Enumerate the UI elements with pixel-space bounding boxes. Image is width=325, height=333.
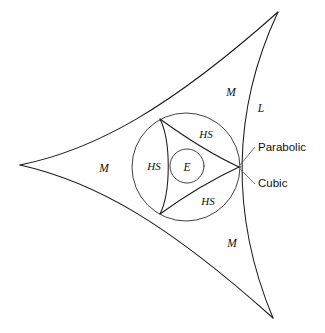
region-label-hs-left: HS (146, 160, 161, 172)
outer-arc-left-top (20, 12, 278, 165)
inner-arc-bottom-top (160, 119, 168, 214)
region-label-hs-top: HS (198, 128, 213, 140)
outer-arc-top-bottom (242, 12, 278, 318)
deltoid-diagram-svg: M M M L HS HS HS E Parabolic Cubic (0, 0, 325, 333)
region-label-m-left: M (98, 162, 110, 174)
region-label-hs-bottom: HS (200, 195, 215, 207)
region-label-e-center: E (182, 161, 190, 173)
callout-label-cubic: Cubic (258, 177, 288, 189)
region-label-m-bottom: M (226, 237, 238, 249)
callout-label-parabolic: Parabolic (258, 141, 306, 153)
diagram-root: M M M L HS HS HS E Parabolic Cubic (0, 0, 325, 333)
region-label-m-top: M (225, 86, 237, 98)
inner-arc-top-right (160, 119, 239, 167)
region-label-l-right: L (257, 102, 264, 114)
